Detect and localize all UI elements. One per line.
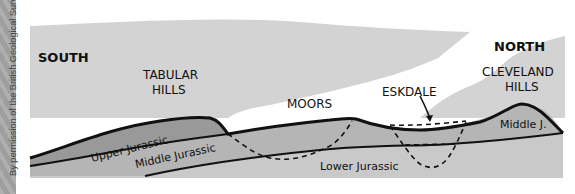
north-label: NORTH: [494, 39, 545, 54]
dashed-eskdale-surface: [390, 121, 466, 125]
lower-jurassic-label: Lower Jurassic: [320, 160, 399, 173]
tabular-hills-label-2: HILLS: [152, 83, 186, 97]
geology-cross-section: SOUTH NORTH TABULAR HILLS MOORS ESKDALE …: [0, 0, 575, 194]
eskdale-arrowhead: [426, 115, 433, 122]
moors-label: MOORS: [287, 97, 332, 111]
eskdale-label: ESKDALE: [382, 85, 437, 99]
middle-j-label: Middle J.: [500, 118, 547, 131]
cleveland-hills-label-1: CLEVELAND: [482, 65, 554, 79]
south-label: SOUTH: [38, 50, 89, 65]
tabular-hills-label-1: TABULAR: [142, 68, 198, 82]
sky-region: [30, 19, 470, 118]
cleveland-hills-label-2: HILLS: [505, 80, 539, 94]
